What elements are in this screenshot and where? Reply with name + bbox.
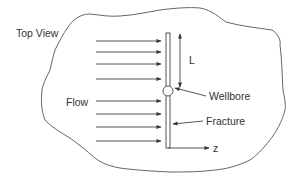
fracture-pointer-arrow — [173, 121, 203, 124]
fracture-flow-diagram: Top View Flow L Wellbore Fracture z — [0, 0, 302, 180]
flow-arrows — [96, 41, 161, 141]
title-label: Top View — [16, 27, 59, 39]
length-label: L — [189, 54, 195, 66]
flow-label: Flow — [66, 96, 89, 108]
wellbore — [163, 86, 173, 96]
wellbore-pointer-arrow — [175, 88, 206, 96]
fracture-label: Fracture — [206, 115, 245, 127]
z-axis-label: z — [213, 142, 218, 154]
wellbore-label: Wellbore — [209, 90, 250, 102]
